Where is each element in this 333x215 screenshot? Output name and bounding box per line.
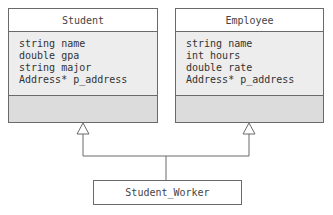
- attribute: double gpa: [19, 50, 157, 62]
- class-name: Student_Worker: [125, 187, 209, 198]
- attribute: Address* p_address: [186, 74, 323, 86]
- class-name: Student: [9, 9, 157, 32]
- attribute: int hours: [186, 50, 323, 62]
- generalization-arrow-icon: [243, 123, 255, 134]
- attributes-section: string name int hours double rate Addres…: [176, 32, 323, 96]
- edge-to-employee: [166, 134, 249, 156]
- attribute: string name: [19, 38, 157, 50]
- attribute: Address* p_address: [19, 74, 157, 86]
- class-employee: Employee string name int hours double ra…: [175, 8, 324, 123]
- class-student-worker: Student_Worker: [93, 180, 242, 205]
- attribute: string major: [19, 62, 157, 74]
- attribute: double rate: [186, 62, 323, 74]
- methods-section: [9, 96, 157, 122]
- attribute: string name: [186, 38, 323, 50]
- edge-to-student: [83, 134, 166, 156]
- generalization-arrow-icon: [77, 123, 89, 134]
- class-name: Employee: [176, 9, 323, 32]
- methods-section: [176, 96, 323, 122]
- class-student: Student string name double gpa string ma…: [8, 8, 158, 123]
- attributes-section: string name double gpa string major Addr…: [9, 32, 157, 96]
